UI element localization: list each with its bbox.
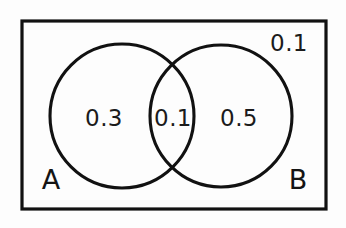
set-label-a: A xyxy=(42,164,61,195)
region-label-intersection: 0.1 xyxy=(154,105,192,131)
venn-diagram-figure: 0.3 0.1 0.5 0.1 A B xyxy=(0,0,346,228)
region-label-a-only: 0.3 xyxy=(85,105,123,131)
region-label-b-only: 0.5 xyxy=(220,105,258,131)
venn-diagram-canvas: 0.3 0.1 0.5 0.1 A B xyxy=(0,0,346,228)
set-label-b: B xyxy=(289,164,308,195)
region-label-outside: 0.1 xyxy=(270,30,308,56)
